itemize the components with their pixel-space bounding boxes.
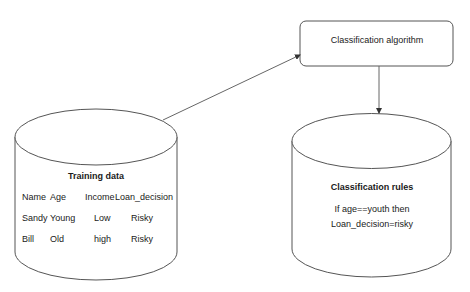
table-cell: Sandy [22,214,48,223]
column-header-loan-decision: Loan_decision [115,193,173,202]
table-cell: Bill [22,235,34,244]
table-cell: Risky [131,235,153,244]
column-header-age: Age [50,193,66,202]
table-cell: Low [94,214,111,223]
rule-line-1: If age==youth then [334,205,409,214]
table-cell: Young [50,214,75,223]
table-cell: high [94,235,111,244]
table-cell: Old [50,235,64,244]
column-header-name: Name [22,193,46,202]
training-data-title: Training data [68,172,124,181]
classification-rules-title: Classification rules [331,183,414,192]
classification-rules-cylinder [292,114,451,278]
rule-line-2: Loan_decision=risky [331,220,413,229]
algorithm-label: Classification algorithm [331,36,424,45]
table-cell: Risky [131,214,153,223]
arrow-training-to-algorithm [163,55,300,120]
column-header-income: Income [85,193,115,202]
